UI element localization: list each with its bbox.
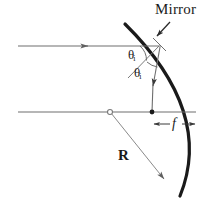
center-of-curvature-point: [108, 110, 113, 115]
angle-incidence-label: θi: [128, 48, 136, 61]
angle-arc-reflection: [147, 62, 158, 67]
focal-point: [150, 110, 155, 115]
mirror-label: Mirror: [155, 2, 196, 17]
mirror-leader-arrow: [157, 22, 170, 36]
reflected-ray-segment-2: [152, 84, 153, 112]
radius-label: R: [118, 148, 129, 163]
ray-diagram-figure: Mirror θi θi f R: [0, 0, 216, 207]
radius-line: [111, 113, 164, 179]
focal-length-label: f: [172, 117, 176, 131]
diagram-canvas: [0, 0, 216, 207]
angle-reflection-label: θi: [134, 66, 142, 79]
